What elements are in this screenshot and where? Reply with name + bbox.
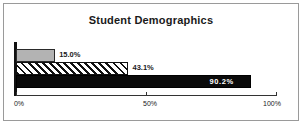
bar-row: 90.2% <box>16 75 277 88</box>
bar-series-2[interactable] <box>16 62 128 75</box>
bar-row: 43.1% <box>16 62 277 75</box>
chart-container: Student Demographics 0% 50% 100% 15.0% 4… <box>0 0 302 124</box>
bar-value-label-3: 90.2% <box>209 77 233 86</box>
bar-series-1[interactable] <box>16 49 55 62</box>
bar-row: 15.0% <box>16 49 277 62</box>
x-axis-label-100: 100% <box>263 100 281 107</box>
chart-title: Student Demographics <box>0 14 302 26</box>
x-axis-label-50: 50% <box>143 100 157 107</box>
bar-value-label-2: 43.1% <box>132 63 153 72</box>
bar-value-label-1: 15.0% <box>59 50 80 59</box>
bars-group: 15.0% 43.1% 90.2% <box>16 42 277 95</box>
x-axis-label-0: 0% <box>14 100 24 107</box>
